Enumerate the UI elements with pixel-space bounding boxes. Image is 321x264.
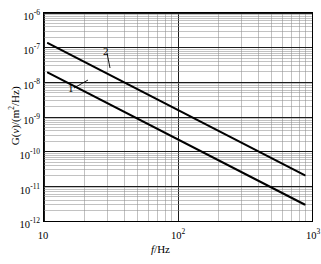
chart-figure: 10-6 10-7 10-8 10-9 10-10 10-11 10-12 2 … bbox=[0, 0, 321, 264]
y-title-prefix: G( bbox=[9, 134, 21, 146]
y-axis-title: G(v)/(m2/Hz) bbox=[7, 51, 21, 181]
x-tick-label: 10 bbox=[38, 226, 49, 241]
series-line bbox=[48, 73, 305, 205]
x-tick-label: 102 bbox=[171, 226, 185, 241]
series-callout-2: 2 bbox=[103, 46, 109, 57]
data-series-layer bbox=[44, 13, 312, 221]
series-callout-1: 1 bbox=[68, 83, 74, 94]
series-line bbox=[48, 43, 305, 175]
x-tick-label: 103 bbox=[306, 226, 320, 241]
y-title-suffix: )/(m bbox=[9, 110, 21, 129]
y-tick-label: 10-11 bbox=[0, 182, 40, 196]
x-axis-title: f/Hz bbox=[0, 243, 321, 255]
y-title-var: v bbox=[9, 129, 21, 134]
x-axis-title-unit: /Hz bbox=[154, 243, 170, 255]
y-tick-label: 10-6 bbox=[0, 8, 40, 22]
y-title-tail: /Hz) bbox=[9, 86, 21, 106]
plot-area bbox=[43, 12, 313, 222]
y-title-sup: 2 bbox=[7, 106, 16, 110]
x-axis-tick-labels: 10 102 103 bbox=[0, 226, 321, 244]
